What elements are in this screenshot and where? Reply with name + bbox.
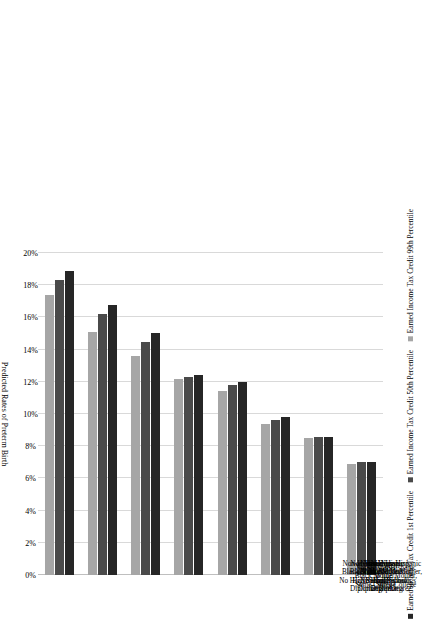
category-label-text: Non-Hispanic White Mother, Bachelor's De… <box>380 560 422 594</box>
bar-group <box>297 253 340 575</box>
bar-groups <box>38 253 383 575</box>
legend-item[interactable]: Earned Income Tax Credit 50th Percentile <box>406 350 415 482</box>
legend-swatch <box>408 614 413 619</box>
bar <box>141 342 150 575</box>
bar-group <box>167 253 210 575</box>
bar <box>55 280 64 575</box>
bar <box>271 420 280 575</box>
category-axis-labels: Non-Hispanic Black Mother, No High Schoo… <box>383 253 425 575</box>
value-axis-tick-label: 20% <box>23 249 38 258</box>
bar <box>184 377 193 575</box>
bar <box>347 464 356 575</box>
bar <box>45 295 54 575</box>
legend-label: Earned Income Tax Credit 50th Percentile <box>406 350 415 474</box>
value-axis-tick-label: 8% <box>25 442 36 451</box>
legend-label: Earned Income Tax Credit 1st Percentile <box>406 491 415 611</box>
plot-area <box>38 253 383 575</box>
bar <box>238 382 247 575</box>
bar-group <box>124 253 167 575</box>
legend-swatch <box>408 477 413 482</box>
bar <box>324 437 333 575</box>
bar <box>108 305 117 575</box>
bar <box>304 438 313 575</box>
value-axis-tick-label: 12% <box>23 377 38 386</box>
bar <box>367 462 376 575</box>
value-axis-tick-label: 4% <box>25 506 36 515</box>
bar-group <box>211 253 254 575</box>
value-axis-tick-label: 18% <box>23 281 38 290</box>
value-axis-title: Predicted Rates of Preterm Birth <box>0 253 9 575</box>
legend-item[interactable]: Earned Income Tax Credit 99th Percentile <box>406 209 415 341</box>
bar <box>65 271 74 575</box>
value-axis-tick-label: 10% <box>23 410 38 419</box>
bar <box>314 437 323 575</box>
bar-group <box>81 253 124 575</box>
value-axis-tick-label: 14% <box>23 345 38 354</box>
bar <box>131 356 140 575</box>
bar <box>357 462 366 575</box>
bar <box>151 334 160 576</box>
legend-swatch <box>408 336 413 341</box>
bar <box>194 375 203 575</box>
bar-group <box>38 253 81 575</box>
bar <box>218 391 227 575</box>
bar <box>88 332 97 575</box>
bar <box>98 314 107 575</box>
value-axis-tick-label: 0% <box>25 571 36 580</box>
chart-legend: Earned Income Tax Credit 1st PercentileE… <box>406 253 415 575</box>
bar <box>281 417 290 575</box>
bar-group <box>340 253 383 575</box>
legend-item[interactable]: Earned Income Tax Credit 1st Percentile <box>406 491 415 619</box>
bar-group <box>254 253 297 575</box>
bar <box>174 379 183 575</box>
category-label: Non-Hispanic White Mother, Bachelor's De… <box>420 253 425 575</box>
value-axis-tick-label: 6% <box>25 474 36 483</box>
bar <box>228 385 237 575</box>
bar <box>261 424 270 575</box>
value-axis-tick-label: 2% <box>25 538 36 547</box>
legend-label: Earned Income Tax Credit 99th Percentile <box>406 209 415 333</box>
value-axis-tick-label: 16% <box>23 313 38 322</box>
